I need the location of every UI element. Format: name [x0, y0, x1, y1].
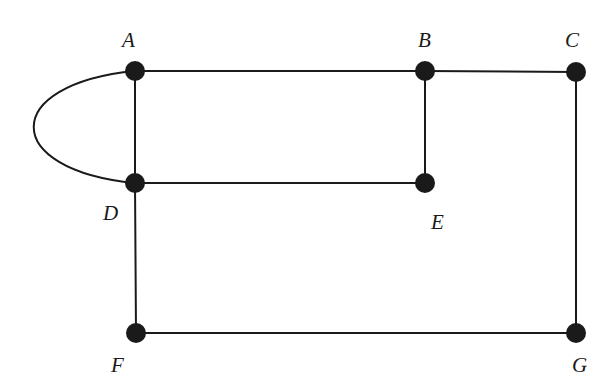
- graph-diagram: A B C D E F G: [0, 0, 600, 387]
- edge-d-f: [135, 183, 136, 333]
- node-g: [566, 323, 586, 343]
- node-f: [126, 323, 146, 343]
- node-b: [415, 61, 435, 81]
- node-a: [125, 61, 145, 81]
- nodes-layer: [125, 61, 586, 343]
- node-label-b: B: [418, 28, 431, 52]
- node-label-a: A: [120, 28, 135, 52]
- node-label-g: G: [572, 353, 587, 377]
- edge-a-d-curved: [34, 71, 135, 183]
- node-c: [566, 62, 586, 82]
- node-label-c: C: [565, 28, 580, 52]
- node-e: [415, 173, 435, 193]
- node-d: [125, 173, 145, 193]
- labels-layer: A B C D E F G: [102, 28, 587, 377]
- edge-b-c: [425, 71, 576, 72]
- node-label-d: D: [102, 201, 118, 225]
- node-label-e: E: [430, 210, 444, 234]
- node-label-f: F: [110, 353, 124, 377]
